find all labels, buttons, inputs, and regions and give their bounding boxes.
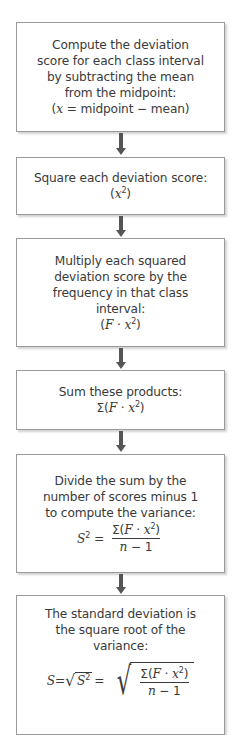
step-text: to compute the variance:	[45, 505, 196, 521]
formula-paren: )	[184, 667, 189, 681]
formula-paren: )	[136, 318, 141, 332]
formula-var-s: S	[47, 673, 55, 689]
formula-dot: ·	[117, 401, 128, 415]
formula-denominator: n − 1	[112, 538, 161, 555]
radical-icon: √	[117, 662, 131, 699]
step-text: Compute the deviation	[52, 37, 189, 53]
down-arrow-icon	[116, 133, 126, 155]
step-text: by subtracting the mean	[47, 69, 194, 85]
formula-rest: = midpoint − mean)	[63, 102, 189, 116]
formula-var-f: F	[109, 401, 117, 415]
flow-step-compute-variance: Divide the sum by the number of scores m…	[16, 454, 225, 573]
formula-paren: )	[126, 187, 131, 201]
step-formula: (x = midpoint − mean)	[52, 101, 190, 117]
step-text: from the midpoint:	[65, 85, 177, 101]
down-arrow-icon	[116, 216, 126, 237]
formula-var-f: F	[105, 318, 113, 332]
flow-step-compute-deviation: Compute the deviation score for each cla…	[16, 22, 225, 132]
down-arrow-icon	[116, 431, 126, 452]
formula-exponent: 2	[85, 673, 90, 682]
flow-step-square-deviation: Square each deviation score: (x2)	[16, 157, 225, 215]
formula-var-f: F	[152, 667, 160, 681]
flow-step-multiply-frequency: Multiply each squared deviation score by…	[16, 238, 225, 347]
step-formula: (F · x2)	[100, 317, 140, 333]
step-text: frequency in that class	[53, 285, 188, 301]
formula-var-x: x	[56, 102, 63, 116]
flow-step-standard-deviation: The standard deviation is the square roo…	[16, 595, 225, 735]
formula-fraction: Σ(F · x2) n − 1	[136, 667, 192, 699]
formula-minus-one: − 1	[156, 684, 181, 698]
formula-numerator: Σ(F · x2)	[108, 523, 164, 538]
formula-var-x: x	[128, 401, 135, 415]
formula-paren: )	[155, 523, 160, 537]
step-text: variance:	[93, 638, 148, 654]
sqrt-s-squared: √ S2	[65, 672, 92, 689]
std-dev-formula: S = √ S2 = √ Σ(F · x2) n − 1	[47, 662, 195, 699]
formula-lhs: S2 =	[77, 531, 104, 547]
formula-fraction: Σ(F · x2) n − 1	[108, 523, 164, 555]
variance-formula: S2 = Σ(F · x2) n − 1	[77, 523, 164, 555]
formula-dot: ·	[132, 523, 143, 537]
formula-var-s: S	[77, 674, 85, 688]
formula-dot: ·	[113, 318, 124, 332]
step-text: Sum these products:	[59, 384, 182, 400]
step-text: number of scores minus 1	[43, 489, 198, 505]
formula-dot: ·	[161, 667, 172, 681]
formula-var-x: x	[172, 667, 179, 681]
formula-equals: =	[90, 532, 104, 546]
step-text: Divide the sum by the	[55, 473, 187, 489]
formula-minus-one: − 1	[127, 540, 152, 554]
formula-denominator: n − 1	[140, 682, 189, 699]
down-arrow-icon	[116, 348, 126, 369]
formula-numerator: Σ(F · x2)	[136, 667, 192, 682]
step-formula: (x2)	[110, 186, 131, 202]
step-text: deviation score by the	[54, 269, 187, 285]
flow-step-sum-products: Sum these products: Σ(F · x2)	[16, 370, 225, 430]
sqrt-fraction: √ Σ(F · x2) n − 1	[107, 662, 194, 699]
step-formula: Σ(F · x2)	[97, 400, 145, 416]
formula-equals: =	[94, 673, 104, 689]
step-text: score for each class interval	[37, 53, 204, 69]
formula-equals: =	[55, 673, 65, 689]
down-arrow-icon	[116, 574, 126, 594]
step-text: the square root of the	[56, 622, 186, 638]
formula-sigma: Σ(	[112, 523, 124, 537]
radicand: S2	[75, 672, 92, 689]
step-text: Multiply each squared	[55, 253, 186, 269]
formula-paren: )	[140, 401, 145, 415]
formula-var-n: n	[148, 684, 156, 698]
radical-icon: √	[65, 672, 75, 689]
formula-sigma: Σ(	[97, 401, 109, 415]
step-text: interval:	[96, 301, 145, 317]
radicand-fraction: Σ(F · x2) n − 1	[130, 662, 194, 699]
step-text: Square each deviation score:	[34, 170, 207, 186]
formula-sigma: Σ(	[140, 667, 152, 681]
step-text: The standard deviation is	[45, 606, 196, 622]
